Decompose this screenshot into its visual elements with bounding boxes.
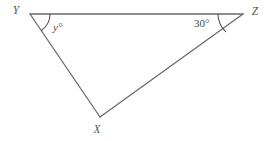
vertex-label-Y: Y: [13, 4, 21, 16]
triangle-diagram: Y Z X y° 30°: [0, 0, 270, 141]
angle-label-y: y°: [52, 21, 63, 33]
side-YX: [30, 14, 100, 117]
geometry-figure: Y Z X y° 30°: [0, 0, 270, 141]
side-XZ: [100, 14, 243, 117]
vertex-label-Z: Z: [252, 5, 259, 17]
angle-arc-Y: [42, 14, 50, 30]
vertex-label-X: X: [92, 123, 101, 135]
angle-label-30: 30°: [194, 17, 209, 29]
